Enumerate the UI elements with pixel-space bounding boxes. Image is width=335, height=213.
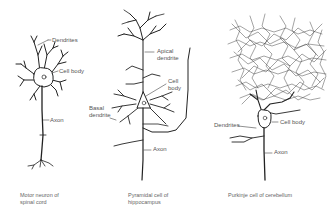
caption-purkinje-line1: Purkinje cell of cerebellum	[228, 192, 292, 199]
label-pyramidal-axon: Axon	[153, 146, 167, 153]
label-apical-line2: dendrite	[157, 55, 179, 62]
label-motor-dendrites: Dendrites	[52, 37, 78, 44]
label-purkinje-dendrites: Dendrites	[214, 122, 240, 129]
caption-motor-neuron: Motor neuron of spinal cord	[20, 192, 59, 206]
label-basal-line1: Basal	[89, 105, 111, 112]
label-apical-line1: Apical	[157, 48, 179, 55]
label-cellbody-line2: body	[168, 85, 181, 92]
label-pyramidal-apical-dendrite: Apical dendrite	[157, 48, 179, 62]
caption-pyramidal-cell: Pyramidal cell of hippocampus	[128, 192, 168, 206]
neuron-illustrations	[0, 0, 335, 213]
caption-motor-line1: Motor neuron of	[20, 192, 59, 199]
label-motor-cell-body: Cell body	[59, 68, 84, 75]
caption-pyramidal-line1: Pyramidal cell of	[128, 192, 168, 199]
label-purkinje-cell-body: Cell body	[280, 119, 305, 126]
label-pyramidal-basal-dendrite: Basal dendrite	[89, 105, 111, 119]
caption-pyramidal-line2: hippocampus	[128, 199, 168, 206]
caption-purkinje-cell: Purkinje cell of cerebellum	[228, 192, 292, 199]
motor-neuron-drawing	[16, 36, 68, 169]
label-pyramidal-cell-body: Cell body	[168, 78, 181, 92]
label-motor-axon: Axon	[50, 117, 64, 124]
caption-motor-line2: spinal cord	[20, 199, 59, 206]
label-basal-line2: dendrite	[89, 112, 111, 119]
pyramidal-cell-drawing	[110, 10, 190, 180]
label-purkinje-axon: Axon	[274, 149, 288, 156]
label-cellbody-line1: Cell	[168, 78, 181, 85]
